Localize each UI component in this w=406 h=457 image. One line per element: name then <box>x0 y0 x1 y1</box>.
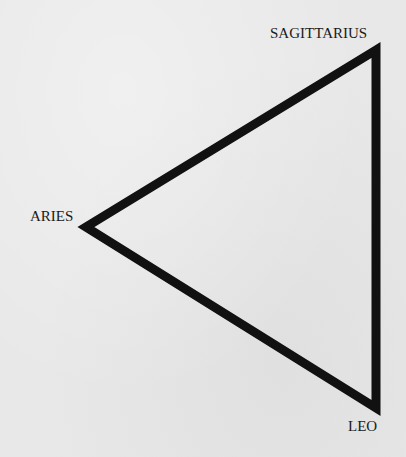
vertex-label-sagittarius: SAGITTARIUS <box>270 26 367 41</box>
fire-triangle <box>86 50 376 408</box>
vertex-label-leo: LEO <box>348 419 377 434</box>
vertex-label-aries: ARIES <box>30 209 73 224</box>
triangle-diagram <box>0 0 406 457</box>
